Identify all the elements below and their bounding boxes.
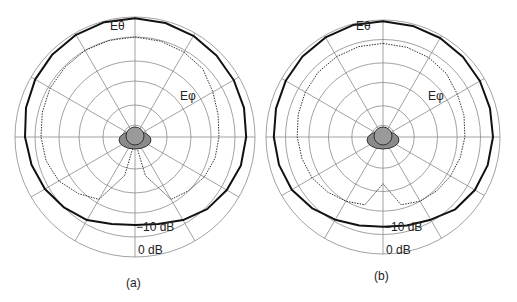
spoke-300 — [31, 77, 135, 137]
spoke-210 — [325, 137, 384, 238]
caption-b: (b) — [374, 269, 389, 283]
polar-plot-a — [15, 17, 255, 257]
spoke-120 — [383, 137, 484, 196]
zerodb-label-b: 0 dB — [386, 243, 411, 257]
spoke-240 — [31, 137, 135, 197]
zerodb-label-a: 0 dB — [138, 243, 163, 257]
head-circle-icon — [374, 127, 392, 145]
caption-a: (a) — [126, 276, 141, 290]
ephi-label-b: Eφ — [428, 89, 444, 103]
minus10db-label-a: −10 dB — [136, 220, 174, 234]
spoke-300 — [282, 79, 383, 138]
head-circle-icon — [126, 127, 144, 145]
spoke-240 — [282, 137, 383, 196]
minus10db-label-b: −10 dB — [384, 220, 422, 234]
polar-pattern-figure: Eθ Eφ −10 dB 0 dB (a) Eθ Eφ −10 dB 0 dB … — [0, 0, 517, 302]
spoke-120 — [135, 137, 239, 197]
etheta-label-b: Eθ — [356, 19, 371, 33]
spoke-30 — [383, 36, 442, 137]
spoke-30 — [135, 33, 195, 137]
polar-plot-b — [266, 20, 500, 254]
etheta-curve — [25, 18, 246, 225]
spoke-330 — [325, 36, 384, 137]
etheta-label-a: Eθ — [110, 19, 125, 33]
ephi-label-a: Eφ — [180, 89, 196, 103]
spoke-60 — [135, 77, 239, 137]
ephi-curve — [297, 43, 465, 204]
spoke-60 — [383, 79, 484, 138]
spoke-330 — [75, 33, 135, 137]
